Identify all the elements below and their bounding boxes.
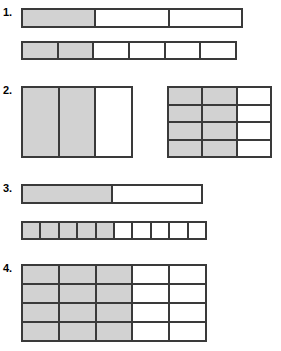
model-row bbox=[23, 10, 241, 26]
empty-cell bbox=[94, 10, 167, 26]
empty-cell bbox=[131, 223, 149, 238]
grid-4a bbox=[21, 264, 207, 342]
empty-cell bbox=[128, 43, 164, 58]
empty-cell bbox=[236, 106, 270, 122]
empty-cell bbox=[199, 43, 235, 58]
shaded-cell bbox=[169, 88, 201, 104]
empty-cell bbox=[150, 223, 168, 238]
shaded-cell bbox=[23, 186, 111, 202]
empty-cell bbox=[168, 266, 205, 283]
shaded-cell bbox=[95, 285, 132, 302]
shaded-cell bbox=[23, 43, 57, 58]
shaded-cell bbox=[95, 323, 132, 340]
shaded-cell bbox=[169, 106, 201, 122]
empty-cell bbox=[131, 266, 168, 283]
bar-3a bbox=[21, 184, 203, 204]
empty-cell bbox=[168, 304, 205, 321]
grid-2a bbox=[21, 86, 133, 158]
empty-cell bbox=[92, 43, 128, 58]
empty-cell bbox=[131, 304, 168, 321]
model-row bbox=[23, 302, 205, 321]
model-row bbox=[169, 139, 270, 157]
empty-cell bbox=[168, 323, 205, 340]
model-row bbox=[23, 283, 205, 302]
shaded-cell bbox=[95, 304, 132, 321]
model-row bbox=[23, 321, 205, 340]
empty-cell bbox=[111, 186, 201, 202]
empty-cell bbox=[131, 285, 168, 302]
shaded-cell bbox=[23, 285, 58, 302]
shaded-cell bbox=[169, 141, 201, 157]
shaded-cell bbox=[95, 266, 132, 283]
shaded-cell bbox=[39, 223, 57, 238]
grid-2b bbox=[167, 86, 272, 158]
model-row bbox=[169, 121, 270, 139]
bar-3b bbox=[21, 221, 207, 240]
shaded-cell bbox=[58, 266, 95, 283]
model-row bbox=[23, 88, 131, 156]
empty-cell bbox=[236, 141, 270, 157]
model-row bbox=[23, 266, 205, 283]
shaded-cell bbox=[201, 106, 235, 122]
shaded-cell bbox=[23, 266, 58, 283]
empty-cell bbox=[168, 10, 241, 26]
empty-cell bbox=[187, 223, 205, 238]
bar-1a bbox=[21, 8, 243, 28]
shaded-cell bbox=[58, 223, 76, 238]
shaded-cell bbox=[58, 285, 95, 302]
empty-cell bbox=[113, 223, 131, 238]
model-row bbox=[169, 104, 270, 122]
shaded-cell bbox=[23, 223, 39, 238]
shaded-cell bbox=[57, 43, 93, 58]
model-row bbox=[169, 88, 270, 104]
model-row bbox=[23, 43, 235, 58]
shaded-cell bbox=[76, 223, 94, 238]
empty-cell bbox=[164, 43, 200, 58]
shaded-cell bbox=[169, 123, 201, 139]
empty-cell bbox=[168, 223, 186, 238]
problem-number-label: 4. bbox=[3, 263, 12, 274]
shaded-cell bbox=[23, 88, 58, 156]
empty-cell bbox=[131, 323, 168, 340]
bar-1b bbox=[21, 41, 237, 60]
problem-number-label: 1. bbox=[3, 7, 12, 18]
shaded-cell bbox=[23, 10, 94, 26]
empty-cell bbox=[94, 88, 131, 156]
empty-cell bbox=[236, 88, 270, 104]
empty-cell bbox=[236, 123, 270, 139]
model-row bbox=[23, 186, 201, 202]
empty-cell bbox=[168, 285, 205, 302]
shaded-cell bbox=[58, 304, 95, 321]
shaded-cell bbox=[23, 304, 58, 321]
shaded-cell bbox=[58, 323, 95, 340]
worksheet-page: 1.2.3.4. bbox=[0, 0, 281, 351]
shaded-cell bbox=[201, 123, 235, 139]
problem-number-label: 3. bbox=[3, 183, 12, 194]
shaded-cell bbox=[23, 323, 58, 340]
model-row bbox=[23, 223, 205, 238]
shaded-cell bbox=[95, 223, 113, 238]
shaded-cell bbox=[201, 88, 235, 104]
problem-number-label: 2. bbox=[3, 85, 12, 96]
shaded-cell bbox=[58, 88, 95, 156]
shaded-cell bbox=[201, 141, 235, 157]
